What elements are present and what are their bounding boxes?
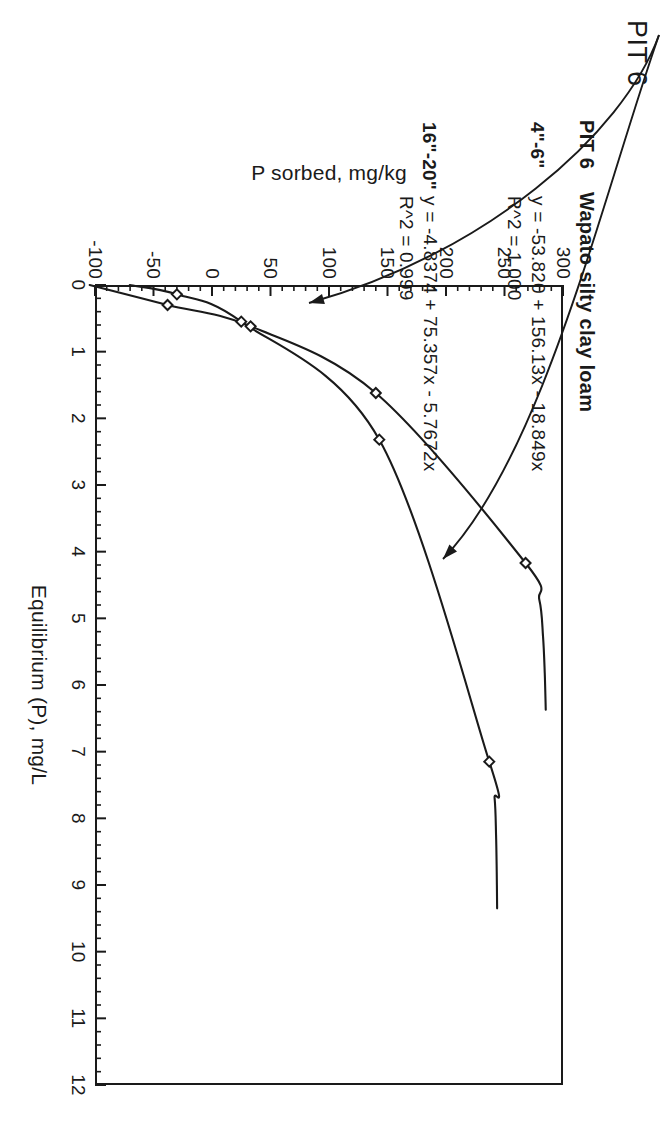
plot-graphics bbox=[95, 285, 563, 1085]
x-tick-label: 7 bbox=[67, 746, 89, 757]
x-tick-label: 5 bbox=[67, 613, 89, 624]
x-tick-label: 4 bbox=[67, 546, 89, 557]
x-tick-label: 10 bbox=[67, 941, 89, 963]
x-tick-label: 2 bbox=[67, 413, 89, 424]
y-tick-label: -100 bbox=[84, 240, 106, 279]
x-tick-label: 12 bbox=[67, 1074, 89, 1096]
x-tick-label: 8 bbox=[67, 813, 89, 824]
y-tick-label: 100 bbox=[318, 247, 340, 279]
data-markers bbox=[163, 289, 531, 766]
x-axis-title: Equilibrium (P), mg/L bbox=[27, 585, 51, 785]
series-label-4-6: 4"-6" bbox=[526, 122, 548, 168]
x-tick-label: 11 bbox=[67, 1008, 89, 1028]
rotated-page-wrapper: PIT 6 PIT 6 Wapato silty clay loam 4"-6"… bbox=[0, 0, 670, 1132]
fitted-curves bbox=[90, 285, 546, 908]
x-tick-label: 1 bbox=[67, 346, 89, 357]
corner-pit-label: PIT 6 bbox=[621, 20, 652, 87]
x-tick-label: 3 bbox=[67, 480, 89, 491]
x-axis-ticks bbox=[95, 285, 106, 1085]
y-tick-label: 200 bbox=[435, 247, 457, 279]
y-tick-label: 0 bbox=[201, 268, 223, 279]
series-label-16-20: 16"-20" bbox=[418, 122, 440, 190]
y-axis-title: P sorbed, mg/kg bbox=[251, 161, 407, 185]
y-tick-label: 150 bbox=[377, 247, 399, 279]
annotation-arrows bbox=[309, 35, 659, 559]
y-tick-label: 300 bbox=[552, 247, 574, 279]
y-tick-label: -50 bbox=[143, 251, 165, 279]
figure-title-pit: PIT 6 bbox=[575, 120, 598, 169]
figure-title-soil: Wapato silty clay loam bbox=[575, 192, 598, 412]
x-tick-label: 9 bbox=[67, 880, 89, 891]
y-tick-label: 250 bbox=[494, 247, 516, 279]
x-tick-label: 0 bbox=[67, 280, 89, 291]
x-tick-label: 6 bbox=[67, 680, 89, 691]
y-tick-label: 50 bbox=[260, 257, 282, 279]
figure-canvas: PIT 6 PIT 6 Wapato silty clay loam 4"-6"… bbox=[0, 0, 670, 1132]
plot-area: Equilibrium (P), mg/L P sorbed, mg/kg 01… bbox=[95, 285, 563, 1085]
